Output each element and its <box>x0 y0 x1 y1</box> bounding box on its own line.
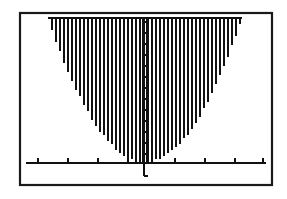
plot-canvas <box>0 0 287 199</box>
parabola-shaded-region-figure <box>0 0 287 199</box>
screenshot-root <box>0 0 287 199</box>
